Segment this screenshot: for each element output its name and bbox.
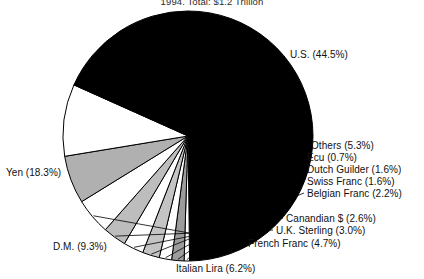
slice-label-yen: Yen (18.3%) [6, 167, 61, 178]
slice-label-italian-lira: Italian Lira (6.2%) [176, 263, 255, 274]
pie-slice-group [63, 11, 313, 261]
pie-chart-figure: 1994, Total: $1.2 Trillion U.S. (44.5%) … [0, 0, 424, 279]
slice-label-swiss-franc: Swiss Franc (1.6%) [307, 176, 395, 187]
slice-label-ecu: Ecu (0.7%) [307, 152, 357, 163]
slice-label-dm: D.M. (9.3%) [53, 241, 107, 252]
slice-label-canadian-dollar: Canandian $ (2.6%) [286, 213, 376, 224]
slice-label-belgian-franc: Belgian Franc (2.2%) [307, 188, 402, 199]
slice-label-others: Others (5.3%) [311, 140, 374, 151]
slice-label-us: U.S. (44.5%) [290, 49, 348, 60]
slice-label-french-franc: French Franc (4.7%) [248, 238, 341, 249]
slice-label-dutch-guilder: Dutch Guilder (1.6%) [307, 164, 401, 175]
slice-label-uk-sterling: U.K. Sterling (3.0%) [276, 225, 365, 236]
